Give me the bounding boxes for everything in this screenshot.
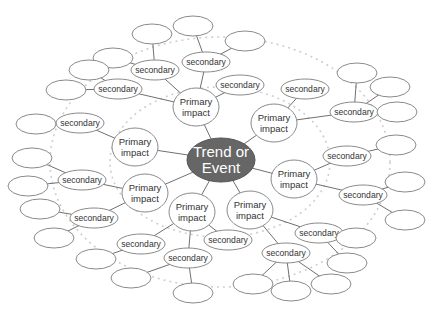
tertiary-node[interactable]: [337, 63, 377, 83]
secondary-node[interactable]: secondary: [262, 243, 310, 263]
primary-label: Primary: [258, 112, 291, 123]
primary-node[interactable]: Primaryimpact: [227, 191, 273, 229]
center-node[interactable]: Trend orEvent: [187, 138, 255, 182]
tertiary-node[interactable]: [76, 249, 116, 269]
tertiary-node[interactable]: [225, 31, 265, 51]
secondary-node[interactable]: secondary: [164, 248, 212, 268]
tertiary-node[interactable]: [12, 148, 52, 168]
primary-label: impact: [260, 123, 288, 134]
tertiary-node[interactable]: [311, 274, 351, 294]
primary-label: impact: [121, 147, 149, 158]
primary-label: Primary: [234, 199, 267, 210]
secondary-node[interactable]: secondary: [281, 79, 329, 99]
tertiary-ellipse: [370, 77, 410, 97]
primary-label: impact: [280, 179, 308, 190]
secondary-node[interactable]: secondary: [182, 52, 230, 72]
tertiary-ellipse: [46, 80, 86, 100]
tertiary-node[interactable]: [336, 228, 376, 248]
tertiary-ellipse: [20, 199, 60, 219]
tertiary-ellipse: [377, 102, 417, 122]
tertiary-node[interactable]: [20, 199, 60, 219]
tertiary-ellipse: [376, 135, 416, 155]
tertiary-node[interactable]: [46, 80, 86, 100]
primary-label: impact: [236, 210, 264, 221]
tertiary-node[interactable]: [385, 210, 425, 230]
nodes: Trend orEventPrimaryimpactPrimaryimpactP…: [8, 16, 425, 303]
secondary-label: secondary: [343, 190, 383, 200]
secondary-node[interactable]: secondary: [70, 208, 118, 228]
secondary-label: secondary: [208, 235, 248, 245]
primary-label: impact: [131, 193, 159, 204]
tertiary-ellipse: [8, 176, 48, 196]
secondary-node[interactable]: secondary: [204, 230, 252, 250]
secondary-label: secondary: [60, 118, 100, 128]
tertiary-ellipse: [233, 274, 273, 294]
primary-node[interactable]: Primaryimpact: [112, 128, 158, 166]
secondary-label: secondary: [285, 84, 325, 94]
secondary-label: secondary: [74, 213, 114, 223]
tertiary-ellipse: [16, 114, 56, 134]
secondary-label: secondary: [186, 57, 226, 67]
tertiary-node[interactable]: [132, 24, 172, 44]
secondary-node[interactable]: secondary: [131, 60, 179, 80]
tertiary-ellipse: [111, 268, 151, 288]
secondary-node[interactable]: secondary: [117, 234, 165, 254]
primary-label: Primary: [278, 168, 311, 179]
primary-node[interactable]: Primaryimpact: [271, 160, 317, 198]
secondary-node[interactable]: secondary: [56, 113, 104, 133]
primary-node[interactable]: Primaryimpact: [122, 174, 168, 212]
tertiary-node[interactable]: [385, 172, 425, 192]
secondary-node[interactable]: secondary: [330, 102, 378, 122]
tertiary-node[interactable]: [111, 268, 151, 288]
primary-label: Primary: [119, 136, 152, 147]
secondary-node[interactable]: secondary: [58, 170, 106, 190]
secondary-label: secondary: [62, 175, 102, 185]
primary-node[interactable]: Primaryimpact: [173, 88, 219, 126]
tertiary-ellipse: [311, 274, 351, 294]
tertiary-ellipse: [12, 148, 52, 168]
primary-label: impact: [178, 212, 206, 223]
tertiary-node[interactable]: [233, 274, 273, 294]
primary-label: Primary: [129, 182, 162, 193]
primary-label: Primary: [180, 96, 213, 107]
tertiary-ellipse: [69, 60, 109, 80]
tertiary-node[interactable]: [173, 16, 213, 36]
tertiary-node[interactable]: [377, 102, 417, 122]
tertiary-node[interactable]: [173, 283, 213, 303]
tertiary-ellipse: [327, 253, 367, 273]
secondary-label: secondary: [299, 228, 339, 238]
secondary-node[interactable]: secondary: [94, 79, 142, 99]
secondary-label: secondary: [98, 84, 138, 94]
tertiary-ellipse: [336, 228, 376, 248]
secondary-node[interactable]: secondary: [216, 75, 264, 95]
tertiary-node[interactable]: [271, 281, 311, 301]
secondary-label: secondary: [220, 80, 260, 90]
secondary-label: secondary: [327, 151, 367, 161]
tertiary-ellipse: [337, 63, 377, 83]
tertiary-node[interactable]: [376, 135, 416, 155]
tertiary-ellipse: [385, 172, 425, 192]
tertiary-ellipse: [132, 24, 172, 44]
tertiary-node[interactable]: [69, 60, 109, 80]
center-label: Event: [202, 159, 241, 176]
secondary-node[interactable]: secondary: [323, 146, 371, 166]
primary-node[interactable]: Primaryimpact: [169, 193, 215, 231]
tertiary-ellipse: [271, 281, 311, 301]
primary-node[interactable]: Primaryimpact: [251, 104, 297, 142]
tertiary-node[interactable]: [8, 176, 48, 196]
secondary-node[interactable]: secondary: [295, 223, 343, 243]
secondary-label: secondary: [121, 239, 161, 249]
tertiary-ellipse: [76, 249, 116, 269]
secondary-label: secondary: [168, 253, 208, 263]
futures-wheel-diagram: Trend orEventPrimaryimpactPrimaryimpactP…: [0, 0, 439, 314]
tertiary-ellipse: [34, 228, 74, 248]
tertiary-node[interactable]: [327, 253, 367, 273]
primary-label: Primary: [176, 201, 209, 212]
tertiary-node[interactable]: [16, 114, 56, 134]
tertiary-node[interactable]: [34, 228, 74, 248]
secondary-node[interactable]: secondary: [339, 185, 387, 205]
tertiary-node[interactable]: [370, 77, 410, 97]
tertiary-ellipse: [225, 31, 265, 51]
secondary-label: secondary: [135, 65, 175, 75]
secondary-label: secondary: [334, 107, 374, 117]
